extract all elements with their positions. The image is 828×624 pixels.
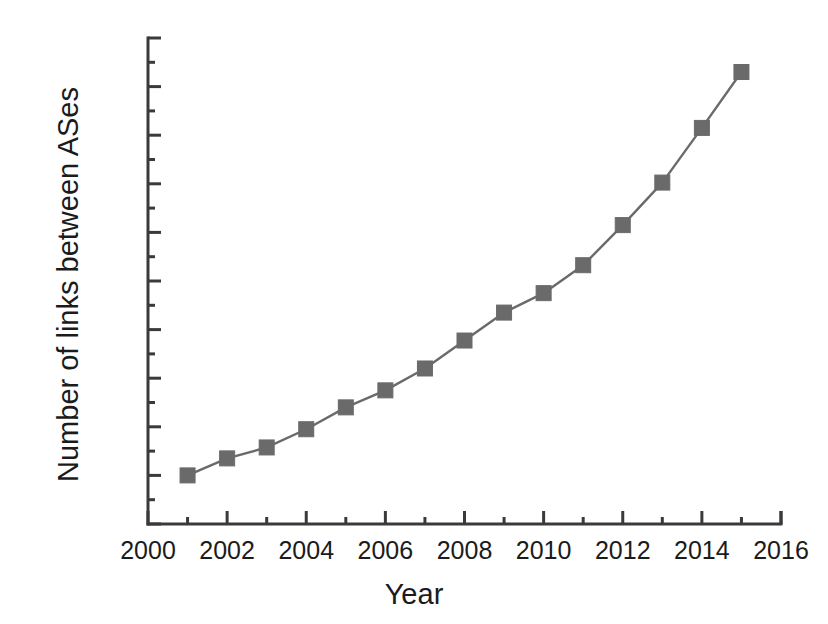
- chart-figure: 0200004000060000800001000001200001400001…: [0, 0, 828, 624]
- x-tick-label: 2004: [278, 536, 334, 565]
- x-axis-title: Year: [0, 578, 828, 611]
- x-tick-label: 2006: [358, 536, 414, 565]
- x-tick-label: 2008: [437, 536, 493, 565]
- x-tick-label: 2016: [753, 536, 809, 565]
- x-tick-label: 2014: [674, 536, 730, 565]
- y-axis-title: Number of links between ASes: [52, 42, 85, 528]
- x-tick-label: 2002: [199, 536, 255, 565]
- x-axis-tick-labels: 200020022004200620082010201220142016: [0, 0, 828, 624]
- x-tick-label: 2010: [516, 536, 572, 565]
- x-tick-label: 2000: [120, 536, 176, 565]
- x-tick-label: 2012: [595, 536, 651, 565]
